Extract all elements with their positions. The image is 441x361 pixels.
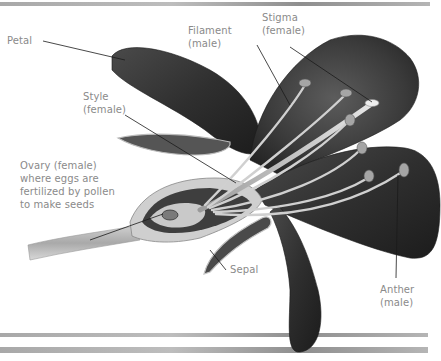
label-filament: Filament (male) <box>188 24 232 50</box>
bottom-rule-lower <box>0 347 428 353</box>
label-ovary-line4: to make seeds <box>20 198 115 211</box>
top-rule <box>0 2 430 6</box>
stigma <box>365 100 379 107</box>
label-filament-line1: Filament <box>188 24 232 37</box>
bottom-rule-upper <box>0 333 428 337</box>
label-sepal: Sepal <box>230 263 258 276</box>
label-ovary-line1: Ovary (female) <box>20 159 115 172</box>
label-stigma-line1: Stigma <box>262 11 305 24</box>
label-style: Style (female) <box>83 90 126 116</box>
label-style-line2: (female) <box>83 103 126 116</box>
label-petal: Petal <box>7 34 32 47</box>
label-anther-line2: (male) <box>380 296 414 309</box>
label-ovary: Ovary (female) where eggs are fertilized… <box>20 159 115 211</box>
label-style-line1: Style <box>83 90 126 103</box>
label-stigma-line2: (female) <box>262 24 305 37</box>
label-anther: Anther (male) <box>380 283 414 309</box>
stem <box>28 226 140 260</box>
petal-lower <box>270 205 321 352</box>
label-ovary-line3: fertilized by pollen <box>20 185 115 198</box>
flower-diagram: Petal Filament (male) Stigma (female) St… <box>0 0 441 361</box>
leader-petal <box>43 41 125 60</box>
ovule <box>162 210 178 220</box>
label-stigma: Stigma (female) <box>262 11 305 37</box>
label-ovary-line2: where eggs are <box>20 172 115 185</box>
label-filament-line2: (male) <box>188 37 232 50</box>
label-anther-line1: Anther <box>380 283 414 296</box>
